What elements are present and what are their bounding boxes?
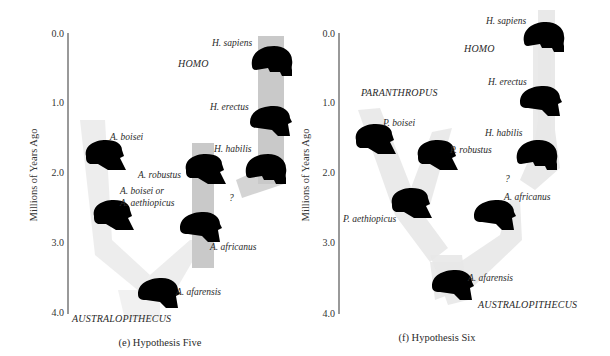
tick-0: 0.0 bbox=[323, 28, 336, 39]
genus-homo: HOMO bbox=[177, 58, 209, 69]
label-a-boisei-or: A. boisei or bbox=[119, 186, 164, 196]
y-axis: 0.0 1.0 2.0 3.0 4.0 Millions of Years Ag… bbox=[28, 28, 68, 318]
label-h-sapiens: H. sapiens bbox=[211, 38, 252, 48]
skull-icon-h-sapiens bbox=[252, 46, 293, 76]
genus-paranthropus: PARANTHROPUS bbox=[360, 87, 438, 98]
label-p-boisei: P. boisei bbox=[382, 118, 415, 128]
tick-2: 2.0 bbox=[52, 167, 65, 178]
caption-hypothesis-five: (e) Hypothesis Five bbox=[119, 337, 202, 349]
label-h-erectus: H. erectus bbox=[209, 102, 249, 112]
label-h-habilis: H. habilis bbox=[484, 128, 523, 138]
tick-3: 3.0 bbox=[52, 237, 65, 248]
uncertain-marker: ? bbox=[505, 174, 510, 184]
hominid-phylogeny-diagram: 0.0 1.0 2.0 3.0 4.0 Millions of Years Ag… bbox=[0, 0, 610, 356]
tick-1: 1.0 bbox=[323, 97, 336, 108]
label-h-sapiens: H. sapiens bbox=[485, 16, 526, 26]
tick-4: 4.0 bbox=[52, 307, 65, 318]
axis-title: Millions of Years Ago bbox=[28, 129, 39, 222]
label-a-afarensis: A. afarensis bbox=[175, 287, 221, 297]
tick-1: 1.0 bbox=[52, 97, 65, 108]
label-a-aethiopicus: A. aethiopicus bbox=[119, 198, 175, 208]
tick-2: 2.0 bbox=[323, 167, 336, 178]
skull-icon-h-habilis bbox=[517, 140, 558, 170]
label-h-erectus: H. erectus bbox=[487, 77, 527, 87]
y-axis: 0.0 1.0 2.0 3.0 4.0 Millions of Years Ag… bbox=[300, 28, 339, 319]
tick-4: 4.0 bbox=[323, 308, 336, 319]
label-a-africanus: A. africanus bbox=[503, 192, 551, 202]
label-p-aethiopicus: P. aethiopicus bbox=[342, 214, 396, 224]
label-a-robustus: A. robustus bbox=[137, 170, 181, 180]
label-a-boisei: A. boisei bbox=[109, 132, 144, 142]
uncertain-marker: ? bbox=[229, 193, 234, 203]
panel-hypothesis-five: 0.0 1.0 2.0 3.0 4.0 Millions of Years Ag… bbox=[28, 28, 292, 349]
genus-australopithecus: AUSTRALOPITHECUS bbox=[71, 313, 171, 324]
skull-icon-p-boisei bbox=[356, 124, 396, 154]
genus-australopithecus: AUSTRALOPITHECUS bbox=[477, 299, 577, 310]
axis-title: Millions of Years Ago bbox=[300, 129, 311, 222]
skull-icon-a-robustus bbox=[186, 154, 226, 184]
skull-icon-a-africanus bbox=[474, 200, 516, 230]
genus-homo: HOMO bbox=[463, 43, 495, 54]
tick-0: 0.0 bbox=[52, 28, 65, 39]
skull-icon-h-sapiens bbox=[524, 22, 565, 52]
lineage-bands bbox=[80, 36, 284, 320]
caption-hypothesis-six: (f) Hypothesis Six bbox=[399, 332, 477, 344]
label-a-africanus: A. africanus bbox=[209, 242, 257, 252]
label-a-afarensis: A. afarensis bbox=[467, 273, 513, 283]
label-h-habilis: H. habilis bbox=[213, 144, 252, 154]
tick-3: 3.0 bbox=[323, 237, 336, 248]
label-p-robustus: P. robustus bbox=[449, 145, 492, 155]
panel-hypothesis-six: 0.0 1.0 2.0 3.0 4.0 Millions of Years Ag… bbox=[300, 10, 577, 344]
